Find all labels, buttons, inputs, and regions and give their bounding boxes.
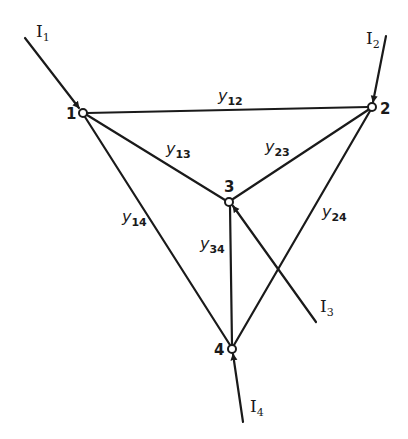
current-label-I3: I3: [320, 296, 334, 319]
node-1: [79, 109, 87, 117]
node-label-1: 1: [66, 105, 76, 123]
edge-label-y13: y13: [165, 139, 191, 161]
edge-label-y24: y24: [321, 202, 347, 224]
node-4: [228, 345, 236, 353]
edge-label-y12: y12: [217, 86, 243, 108]
node-label-3: 3: [224, 178, 234, 196]
edge-y34: [230, 206, 232, 345]
node-label-2: 2: [380, 100, 390, 118]
edge-y14: [85, 117, 230, 345]
edge-y13: [87, 115, 225, 200]
node-3: [225, 198, 233, 206]
edge-label-y23: y23: [264, 137, 290, 159]
node-label-4: 4: [214, 341, 224, 359]
current-label-I4: I4: [250, 396, 264, 419]
current-label-I2: I2: [366, 28, 380, 51]
edge-y24: [234, 111, 370, 345]
node-2: [368, 103, 376, 111]
current-I4-arrow: [233, 354, 243, 422]
edge-label-y34: y34: [199, 234, 225, 256]
network-diagram: 1 2 3 4 y12 y13 y23 y14 y34 y24 I1 I2 I3…: [0, 0, 408, 439]
current-label-I1: I1: [36, 21, 50, 44]
edge-y23: [233, 110, 368, 199]
current-I1-arrow: [25, 38, 79, 108]
